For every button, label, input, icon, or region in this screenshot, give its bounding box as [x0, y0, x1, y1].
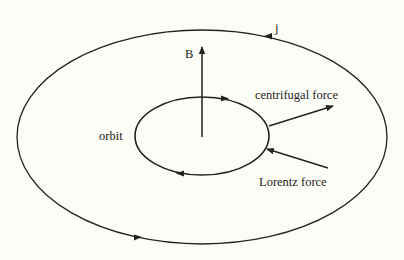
lorentz-force-label: Lorentz force — [259, 175, 327, 189]
centrifugal-force-arrow — [269, 106, 333, 126]
orbit-diagram: j B centrifugal force orbit Lorentz forc… — [0, 0, 404, 260]
outer-loop-arrow-top — [264, 33, 272, 40]
centrifugal-force-label: centrifugal force — [255, 88, 338, 102]
orbit-arrow-bottom — [176, 171, 184, 177]
b-field-label: B — [185, 47, 193, 61]
current-label: j — [274, 21, 278, 35]
orbit-label: orbit — [99, 129, 123, 143]
lorentz-force-arrow — [267, 149, 328, 168]
outer-loop-arrow-bottom — [134, 235, 142, 241]
